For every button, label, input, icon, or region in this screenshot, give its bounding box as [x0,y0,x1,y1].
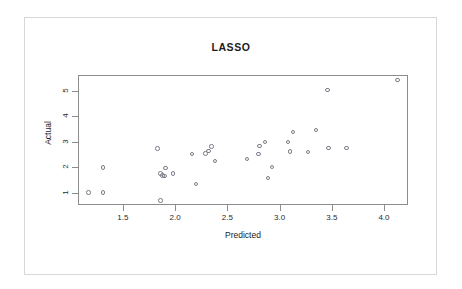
scatter-point [162,174,166,178]
scatter-point [270,165,274,169]
scatter-point [155,146,159,150]
x-axis-tick-label: 3.5 [317,213,347,222]
y-axis-tick [72,142,78,143]
scatter-point [344,146,348,150]
scatter-point [190,152,194,156]
scatter-point [158,198,162,202]
y-axis-label: Actual [43,121,53,145]
scatter-point [314,128,318,132]
scatter-point [256,152,260,156]
x-axis-tick-label: 3.0 [265,213,295,222]
x-axis-tick-label: 4.0 [369,213,399,222]
x-axis-tick-label: 2.5 [212,213,242,222]
scatter-point [163,166,167,170]
scatter-points-layer [79,76,407,204]
scatter-point [171,171,175,175]
scatter-point [288,149,292,153]
y-axis-tick [72,167,78,168]
plot-panel [78,75,408,205]
figure-root: LASSO 123451.52.02.53.03.54.0 Actual Pre… [0,0,462,289]
scatter-point [306,150,310,154]
x-axis-tick [175,205,176,211]
y-axis-tick-label: 5 [61,85,70,95]
scatter-point [325,88,329,92]
scatter-point [101,190,105,194]
y-axis-tick-label: 1 [61,187,70,197]
y-axis-tick [72,193,78,194]
y-axis-tick-label: 4 [61,111,70,121]
scatter-point [286,140,290,144]
scatter-point [206,149,210,153]
x-axis-tick [332,205,333,211]
scatter-point [209,144,213,148]
scatter-point [266,176,270,180]
scatter-point [395,78,399,82]
scatter-point [326,146,330,150]
x-axis-tick [227,205,228,211]
scatter-point [291,130,295,134]
scatter-point [86,190,90,194]
x-axis-tick [123,205,124,211]
scatter-point [245,157,249,161]
chart-title: LASSO [0,41,462,53]
scatter-point [213,159,217,163]
y-axis-tick [72,116,78,117]
y-axis-tick [72,91,78,92]
x-axis-tick [384,205,385,211]
scatter-point [263,140,267,144]
x-axis-tick-label: 2.0 [160,213,190,222]
x-axis-tick [280,205,281,211]
scatter-point [257,144,261,148]
y-axis-tick-label: 2 [61,162,70,172]
y-axis-tick-label: 3 [61,136,70,146]
scatter-point [101,165,105,169]
scatter-point [194,182,198,186]
x-axis-label: Predicted [78,230,408,240]
x-axis-tick-label: 1.5 [108,213,138,222]
